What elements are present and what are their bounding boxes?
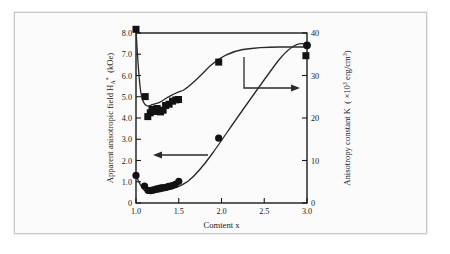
- x-tick-3: 2.5: [259, 207, 269, 216]
- right-axis-unit-close: ): [342, 50, 352, 53]
- right-tick-4: 40: [311, 29, 319, 38]
- left-axis-title-unit: (kOe): [105, 53, 115, 73]
- left-axis-title-main: Apparent anisotropic field H: [105, 85, 115, 184]
- curve-anisotropy-constant: [136, 30, 307, 107]
- left-tick-2: 2.0: [122, 157, 132, 166]
- x-axis-ticklabels: 1.0 1.5 2.0 2.5 3.0: [131, 207, 312, 216]
- left-axis-ticklabels: 0 1.0 2.0 3.0 4.0 5.0 6.0 7.0 8.0: [122, 29, 132, 208]
- right-axis-title: Anisotropy constant K ( ×103 erg/cm3): [341, 50, 353, 186]
- right-axis-unit-pre: ( ×10: [342, 85, 352, 103]
- x-tick-0: 1.0: [131, 207, 141, 216]
- right-tick-2: 20: [311, 114, 319, 123]
- left-tick-6: 6.0: [122, 72, 132, 81]
- left-tick-7: 7.0: [122, 50, 132, 59]
- left-tick-5: 5.0: [122, 93, 132, 102]
- curve-apparent-anisotropic-field: [136, 44, 307, 193]
- right-axis-ticklabels: 0 10 20 30 40: [311, 29, 319, 208]
- data-point-circle: [132, 172, 139, 179]
- x-tick-1: 1.5: [174, 207, 184, 216]
- data-point-square: [215, 59, 222, 66]
- x-axis-title: Comtent x: [203, 220, 240, 230]
- svg-text:Apparent anisotropic field HA*: Apparent anisotropic field HA* (kOe): [104, 53, 116, 184]
- right-tick-3: 30: [311, 72, 319, 81]
- left-tick-1: 1.0: [122, 178, 132, 187]
- data-point-circle: [175, 178, 182, 185]
- right-axis-pointer-arrow: [244, 57, 300, 92]
- right-tick-1: 10: [311, 157, 319, 166]
- data-point-square: [302, 52, 309, 59]
- right-axis-title-main: Anisotropy constant K: [342, 107, 352, 186]
- data-point-square: [142, 93, 149, 100]
- left-tick-4: 4.0: [122, 114, 132, 123]
- plot-frame: [136, 33, 307, 203]
- data-point-circle: [215, 135, 222, 142]
- left-tick-3: 3.0: [122, 135, 132, 144]
- data-point-square: [133, 26, 140, 33]
- left-tick-8: 8.0: [122, 29, 132, 38]
- left-axis-title: Apparent anisotropic field HA* (kOe): [104, 53, 116, 184]
- chart-canvas: 0 1.0 2.0 3.0 4.0 5.0 6.0 7.0 8.0 0 10 2…: [0, 0, 450, 254]
- x-tick-2: 2.0: [216, 207, 226, 216]
- left-axis-pointer-arrow: [153, 151, 208, 158]
- data-point-circle: [303, 41, 311, 49]
- data-points-squares: [133, 26, 310, 120]
- right-axis-unit-post: erg/cm: [342, 56, 352, 82]
- x-tick-4: 3.0: [302, 207, 312, 216]
- x-axis-ticks: [136, 198, 307, 203]
- svg-text:Anisotropy constant K ( ×103: Anisotropy constant K ( ×103 erg/cm3): [341, 50, 353, 186]
- data-point-square: [175, 96, 182, 103]
- figure-page: 0 1.0 2.0 3.0 4.0 5.0 6.0 7.0 8.0 0 10 2…: [0, 0, 450, 254]
